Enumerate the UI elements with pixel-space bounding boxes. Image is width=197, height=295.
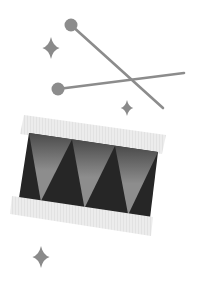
stick-shaft [58,73,184,89]
stick-ball-tip [65,19,78,32]
drumsticks [52,19,185,109]
stick-ball-tip [52,83,65,96]
sparkle-large-bottom-icon [32,246,49,268]
stick-horizontal [52,73,185,96]
stick-shaft [71,25,163,108]
drum-illustration [0,0,197,295]
stick-diagonal [65,19,164,109]
sparkle-small-middle-icon [121,100,133,116]
sparkle-large-top-icon [42,37,59,59]
drum [10,115,166,236]
